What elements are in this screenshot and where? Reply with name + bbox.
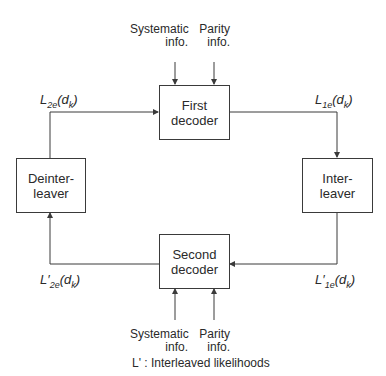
- deinterleaver-block: Deinter- leaver: [16, 158, 86, 213]
- first-decoder-block: First decoder: [159, 85, 230, 140]
- parity-info-top-label: Parity info.: [196, 23, 230, 49]
- second-decoder-block: Second decoder: [159, 234, 230, 289]
- l1e-signal-label: L1e(dk): [315, 92, 353, 110]
- systematic-info-bottom-label: Systematic info.: [130, 328, 188, 354]
- systematic-info-top-label: Systematic info.: [130, 23, 188, 49]
- parity-info-bottom-label: Parity info.: [196, 328, 230, 354]
- lprime-1e-signal-label: L′1e(dk): [315, 272, 355, 290]
- interleaved-likelihoods-note: L' : Interleaved likelihoods: [132, 356, 270, 370]
- lprime-2e-signal-label: L′2e(dk): [40, 272, 80, 290]
- l2e-signal-label: L2e(dk): [40, 92, 78, 110]
- interleaver-block: Inter- leaver: [302, 158, 373, 213]
